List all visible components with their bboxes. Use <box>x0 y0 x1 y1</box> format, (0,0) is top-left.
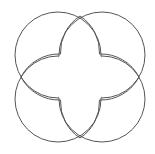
center-clover <box>54 49 106 104</box>
clover-arc-bottom <box>60 100 99 138</box>
four-circles-diagram <box>0 0 155 154</box>
clover-arc-top <box>60 16 99 54</box>
